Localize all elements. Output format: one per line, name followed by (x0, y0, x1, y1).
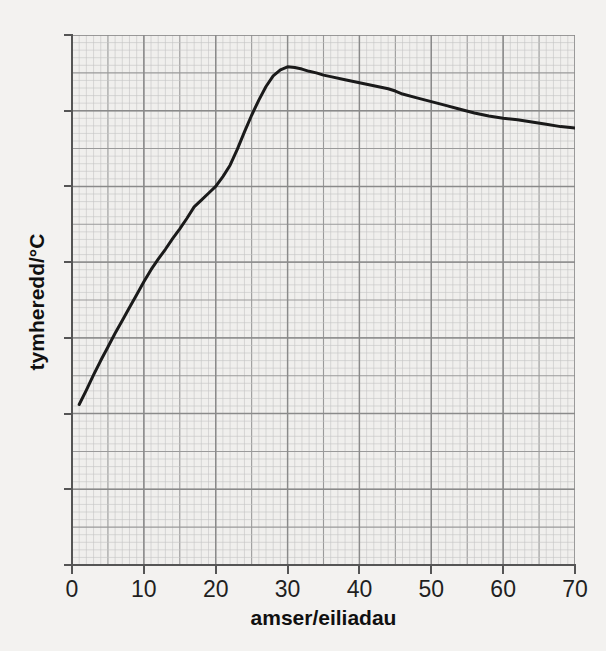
temperature-line-series (72, 35, 575, 565)
x-tick-label: 30 (258, 576, 318, 602)
plot-area (72, 35, 575, 565)
x-tick-mark (287, 566, 289, 574)
x-tick-mark (215, 566, 217, 574)
x-tick-label: 50 (401, 576, 461, 602)
y-tick-mark (64, 413, 72, 415)
x-axis-title: amser/eiliadau (72, 606, 575, 630)
x-tick-mark (71, 566, 73, 574)
x-tick-label: 60 (473, 576, 533, 602)
y-axis-spine (71, 34, 73, 567)
x-tick-mark (574, 566, 576, 574)
y-tick-mark (64, 185, 72, 187)
x-tick-mark (143, 566, 145, 574)
x-tick-label: 0 (42, 576, 102, 602)
x-tick-mark (358, 566, 360, 574)
y-axis-title: tymheredd/°C (25, 187, 49, 417)
chart-page: 010203040506070 010203040506070 tymhered… (0, 0, 606, 651)
y-tick-mark (64, 110, 72, 112)
cropped-title-text (0, 0, 606, 6)
y-tick-mark (64, 488, 72, 490)
x-tick-label: 40 (329, 576, 389, 602)
x-tick-mark (502, 566, 504, 574)
y-tick-mark (64, 34, 72, 36)
x-axis-spine (71, 564, 576, 566)
x-tick-label: 70 (545, 576, 605, 602)
y-tick-mark (64, 261, 72, 263)
x-tick-label: 10 (114, 576, 174, 602)
x-tick-mark (430, 566, 432, 574)
y-tick-mark (64, 337, 72, 339)
x-tick-label: 20 (186, 576, 246, 602)
